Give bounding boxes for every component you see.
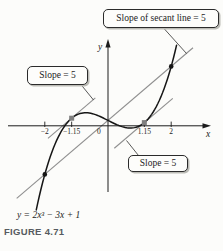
tangent-right-leader-line: [127, 141, 139, 156]
y-axis-arrow-icon: [105, 39, 110, 48]
tangent-point-marker-left: [69, 116, 74, 121]
tangent-point-marker-right: [142, 120, 147, 125]
secant-point-dot: [43, 172, 48, 177]
callout-secant-slope: Slope of secant line = 5: [103, 9, 219, 28]
x-tick-label: 1.15: [138, 127, 151, 136]
x-axis-label: x: [206, 129, 210, 139]
y-axis-label: y: [98, 42, 102, 52]
x-tick-label: −2: [41, 127, 49, 136]
callout-tangent-right-text: Slope = 5: [140, 158, 177, 168]
callout-tangent-left-text: Slope = 5: [39, 70, 76, 80]
x-tick-label: −1.15: [63, 127, 80, 136]
figure-4-71: y x 0 −2−1.151.152 Slope of secant line …: [0, 0, 223, 251]
secant-point-dot: [169, 64, 174, 69]
callout-tangent-left-slope: Slope = 5: [27, 66, 88, 85]
x-tick-label: 2: [169, 127, 173, 136]
origin-label: 0: [97, 127, 101, 136]
curve-equation-label: y = 2x³ − 3x + 1: [17, 210, 80, 220]
callout-secant-slope-text: Slope of secant line = 5: [116, 13, 206, 23]
tangent-left-leader-line: [81, 84, 94, 100]
figure-caption: FIGURE 4.71: [4, 226, 64, 237]
callout-tangent-right-slope: Slope = 5: [128, 155, 188, 172]
x-axis-arrow-icon: [203, 123, 212, 128]
